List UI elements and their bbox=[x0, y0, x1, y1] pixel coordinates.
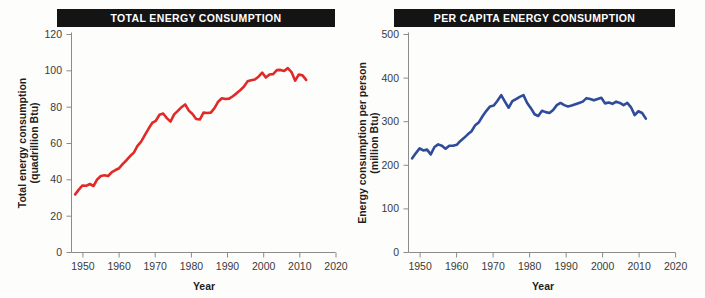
y-tick-label-400-percapita: 400 bbox=[381, 72, 399, 84]
y-tick-label-100-percapita: 100 bbox=[381, 202, 399, 214]
x-tick-label-1990-percapita: 1990 bbox=[554, 260, 578, 272]
y-ticks-percapita bbox=[404, 35, 409, 253]
chart-per-capita-energy-consumption: PER CAPITA ENERGY CONSUMPTION 0 100 200 … bbox=[353, 0, 705, 298]
x-axis-title-total: Year bbox=[193, 280, 215, 292]
axis-lines-total bbox=[72, 33, 336, 253]
chart-total-energy-consumption: TOTAL ENERGY CONSUMPTION 0 20 40 60 80 1… bbox=[0, 0, 352, 298]
x-axis-title-percapita: Year bbox=[532, 280, 554, 292]
x-ticks-total bbox=[83, 253, 336, 258]
y-tick-label-20-total: 20 bbox=[50, 210, 62, 222]
y-tick-label-60-total: 60 bbox=[50, 137, 62, 149]
y-tick-label-500-percapita: 500 bbox=[381, 28, 399, 40]
x-tick-label-2020-percapita: 2020 bbox=[664, 260, 688, 272]
x-tick-label-1970-total: 1970 bbox=[144, 260, 168, 272]
plot-area-total: 0 20 40 60 80 100 120 1950 1960 1970 198… bbox=[0, 0, 352, 298]
x-tick-label-2000-total: 2000 bbox=[252, 260, 276, 272]
x-tick-label-1950-total: 1950 bbox=[71, 260, 95, 272]
x-tick-label-2010-total: 2010 bbox=[288, 260, 312, 272]
y-tick-label-200-percapita: 200 bbox=[381, 159, 399, 171]
x-tick-label-2000-percapita: 2000 bbox=[591, 260, 615, 272]
x-tick-label-1990-total: 1990 bbox=[216, 260, 240, 272]
y-axis-title-line1-total: Total energy consumption bbox=[16, 78, 28, 208]
plot-area-percapita: 0 100 200 300 400 500 1950 1960 1970 198… bbox=[353, 0, 705, 298]
y-axis-title-line2-total: (quadrillion Btu) bbox=[28, 102, 40, 183]
y-tick-label-300-percapita: 300 bbox=[381, 115, 399, 127]
x-tick-label-2010-percapita: 2010 bbox=[627, 260, 651, 272]
x-tick-label-1950-percapita: 1950 bbox=[408, 260, 432, 272]
y-tick-label-100-total: 100 bbox=[44, 64, 62, 76]
axis-lines-percapita bbox=[409, 33, 676, 253]
y-axis-title-line1-percapita: Energy consumption per person bbox=[356, 62, 368, 224]
y-tick-label-0-total: 0 bbox=[56, 246, 62, 258]
x-ticks-percapita bbox=[420, 253, 675, 258]
x-tick-label-1980-percapita: 1980 bbox=[518, 260, 542, 272]
y-ticks-total bbox=[67, 35, 72, 253]
x-tick-label-1980-total: 1980 bbox=[180, 260, 204, 272]
y-tick-label-120-total: 120 bbox=[44, 28, 62, 40]
x-tick-label-1960-total: 1960 bbox=[107, 260, 131, 272]
x-tick-label-1960-percapita: 1960 bbox=[445, 260, 469, 272]
y-tick-label-40-total: 40 bbox=[50, 173, 62, 185]
x-tick-label-1970-percapita: 1970 bbox=[481, 260, 505, 272]
y-axis-title-line2-percapita: (million Btu) bbox=[368, 112, 380, 173]
data-line-total-energy bbox=[75, 68, 306, 194]
y-tick-label-80-total: 80 bbox=[50, 101, 62, 113]
x-tick-label-2020-total: 2020 bbox=[324, 260, 348, 272]
y-tick-label-0-percapita: 0 bbox=[393, 246, 399, 258]
data-line-per-capita-energy bbox=[412, 95, 646, 158]
